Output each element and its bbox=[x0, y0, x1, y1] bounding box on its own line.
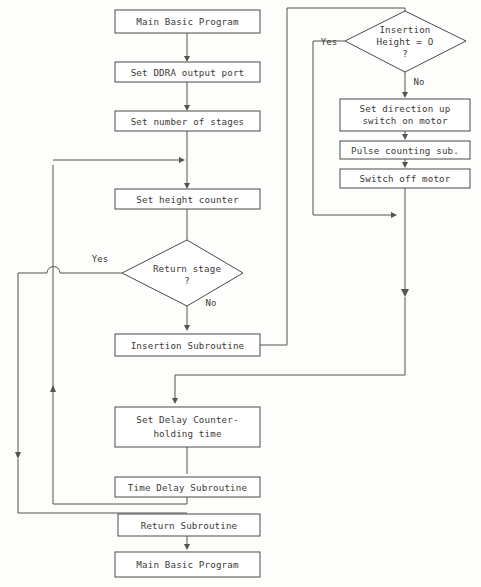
node-label: Main Basic Program bbox=[136, 16, 239, 27]
edge-label-insertion-height-no: No bbox=[413, 77, 424, 87]
node-label-line1: Set Delay Counter- bbox=[136, 414, 238, 425]
arrowhead-right-spine-mid bbox=[401, 289, 409, 297]
node-label-line2: Height = O bbox=[377, 36, 434, 47]
flowchart-canvas: Main Basic Program Set DDRA output port … bbox=[0, 0, 481, 587]
node-label: Set number of stages bbox=[131, 116, 245, 127]
node-label-line3: ? bbox=[402, 48, 408, 59]
node-label: Return Subroutine bbox=[141, 520, 238, 531]
node-label: Insertion Subroutine bbox=[131, 340, 245, 351]
arrowhead-return-stage-yes-mid bbox=[15, 452, 21, 459]
node-switch-off-motor[interactable]: Switch off motor bbox=[340, 169, 470, 188]
node-pulse-counting-sub[interactable]: Pulse counting sub. bbox=[340, 141, 470, 159]
arrowhead-pulse-count bbox=[402, 134, 408, 140]
node-main-basic-program-bottom[interactable]: Main Basic Program bbox=[115, 552, 260, 577]
node-label: Pulse counting sub. bbox=[351, 145, 459, 156]
node-label-line1: Return stage bbox=[153, 263, 221, 274]
node-label-line1: Set direction up bbox=[360, 103, 451, 114]
edge-label-insertion-height-yes: Yes bbox=[321, 37, 338, 47]
arrowhead-set-height bbox=[184, 183, 190, 189]
node-insertion-subroutine[interactable]: Insertion Subroutine bbox=[115, 334, 260, 356]
arrowhead-insertion-height-yes bbox=[391, 212, 397, 218]
node-main-basic-program-top[interactable]: Main Basic Program bbox=[115, 10, 260, 33]
node-insertion-height-decision[interactable]: Insertion Height = O ? bbox=[345, 11, 466, 72]
arrowhead-set-stages bbox=[184, 105, 190, 111]
edge-return-stage-yes-tail bbox=[18, 273, 47, 452]
node-shape-rect bbox=[115, 407, 260, 447]
flowchart-svg: Main Basic Program Set DDRA output port … bbox=[0, 0, 481, 587]
node-time-delay-subroutine[interactable]: Time Delay Subroutine bbox=[115, 477, 260, 497]
arrowhead-left-loop-into-spine bbox=[179, 157, 185, 163]
node-label: Time Delay Subroutine bbox=[128, 482, 247, 493]
node-set-delay-counter[interactable]: Set Delay Counter- holding time bbox=[115, 407, 260, 447]
node-label: Set height counter bbox=[136, 194, 239, 205]
node-label: Main Basic Program bbox=[136, 559, 239, 570]
arrowhead-insertion-sub bbox=[184, 325, 190, 331]
arrowhead-switch-off bbox=[402, 162, 408, 168]
node-set-number-of-stages[interactable]: Set number of stages bbox=[115, 111, 260, 131]
arrowhead-time-delay-loop-up bbox=[50, 385, 56, 392]
node-label: Switch off motor bbox=[360, 173, 451, 184]
edge-label-return-stage-yes: Yes bbox=[92, 254, 109, 264]
node-set-direction-up[interactable]: Set direction up switch on motor bbox=[340, 99, 470, 131]
node-set-height-counter[interactable]: Set height counter bbox=[115, 189, 260, 209]
node-return-subroutine[interactable]: Return Subroutine bbox=[118, 514, 260, 536]
arrowhead-set-delay bbox=[172, 398, 178, 404]
node-label-line2: switch on motor bbox=[362, 115, 448, 126]
node-label-line1: Insertion bbox=[379, 24, 430, 35]
arrowhead-main-bottom bbox=[184, 544, 190, 550]
node-label: Set DDRA output port bbox=[131, 67, 245, 78]
arrowhead-set-direction bbox=[402, 92, 408, 98]
node-label-line2: holding time bbox=[153, 428, 221, 439]
node-label-line2: ? bbox=[184, 275, 190, 286]
edge-label-return-stage-no: No bbox=[205, 298, 216, 308]
node-set-ddra-output-port[interactable]: Set DDRA output port bbox=[115, 62, 260, 82]
node-return-stage-decision[interactable]: Return stage ? bbox=[122, 240, 243, 306]
arrowhead-set-ddra bbox=[184, 56, 190, 62]
